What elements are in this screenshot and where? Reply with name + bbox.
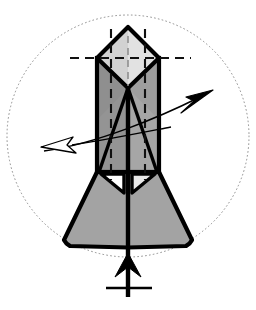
solid-arrow-head <box>181 90 213 113</box>
crystal-diagram-svg <box>0 0 256 310</box>
figure-canvas: Crystal habit diagram with rotation axis… <box>0 0 256 310</box>
